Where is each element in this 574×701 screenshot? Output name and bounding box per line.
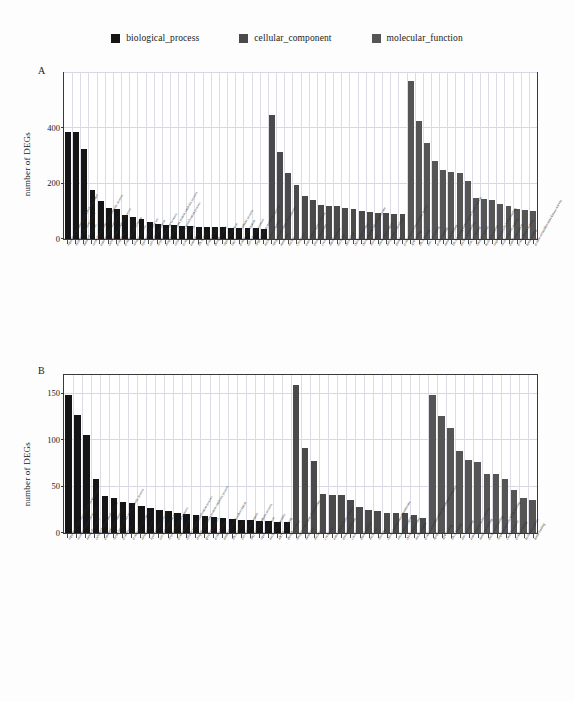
x-label-slot: cytoplasm [319,539,328,629]
x-label-slot: nucleic acid binding [456,245,464,335]
x-axis-tick-label: DNA binding [451,539,454,541]
x-axis-tick-label: metal ion binding [479,539,482,541]
bar[interactable] [408,81,414,239]
x-axis-tick-label: cellular protein modification process [174,245,177,247]
bar[interactable] [65,132,71,239]
x-axis-tick-label: nucleolus [337,245,340,247]
x-label-slot: endoplasmic reticulum [382,245,390,335]
x-label-slot: response to oxidative stress [153,245,161,335]
x-label-slot: plasma membrane [309,245,317,335]
x-label-slot: metal ion binding [440,245,448,335]
bar-slot [428,375,437,533]
bar[interactable] [429,395,436,533]
x-label-slot: carbohydrate metabolic process [90,539,99,629]
bar-slot [319,375,328,533]
bar[interactable] [65,395,72,533]
bar-slot [488,73,496,239]
x-label-slot: oxidation-reduction process [72,539,81,629]
x-label-slot: regulation of transcription, DNA-templat… [63,245,71,335]
panel-b-x-labels: regulation of transcription, DNA-templat… [63,539,538,629]
x-label-slot: nucleus [310,539,319,629]
x-axis-tick-label: transmembrane transport [104,539,107,541]
bar-slot [528,375,537,533]
x-label-slot: catalytic activity [502,539,511,629]
bar-slot [146,73,154,239]
bar[interactable] [326,206,332,239]
x-axis-tick-label: protein binding [515,539,518,541]
bar-slot [355,375,364,533]
bar-slot [382,73,390,239]
x-label-slot: glycolytic process [200,539,209,629]
x-label-slot: proteinaceous extracellular matrix [399,245,407,335]
panel-b-plot: 050100150 [63,374,538,534]
x-axis-tick-label: translation [190,245,193,247]
bar-slot [137,375,146,533]
x-axis-tick-label: DNA repair [198,245,201,247]
bar-slot [260,73,268,239]
bar[interactable] [320,494,327,533]
x-axis-tick-label: fatty acid biosynthetic process [250,539,253,541]
x-axis-tick-label: protein binding [436,245,439,247]
legend-molecular-function[interactable]: molecular_function [372,33,463,43]
x-label-slot: ATP binding [438,539,447,629]
bar-slot [113,73,121,239]
bar-slot [391,375,400,533]
x-axis-tick-label: protein kinase activity [517,245,520,247]
x-label-slot: peptidyl-serine phosphorylation [218,539,227,629]
x-label-slot: cytoplasm [292,245,300,335]
bar-slot [341,73,349,239]
x-label-slot: metabolic process [79,245,87,335]
y-axis-tick-label: 100 [47,436,64,445]
panel-b-plot-area: 050100150 [63,374,538,534]
x-label-slot: nucleic acid binding [483,539,492,629]
x-label-slot: ribosome [374,539,383,629]
x-axis-tick-label: ubiquitin-dependent protein catabolic pr… [165,245,168,247]
legend-cellular-component[interactable]: cellular_component [239,33,331,43]
x-axis-tick-label: protein folding [206,245,209,247]
bar-slot [410,375,419,533]
x-axis-tick-label: transcription factor activity [470,539,473,541]
x-label-slot: hydrolase activity [481,245,489,335]
x-label-slot: proteolysis [118,539,127,629]
bar-slot [382,375,391,533]
x-axis-tick-label: protein folding [214,539,217,541]
x-axis-tick-label: ubiquitin-dependent protein catabolic pr… [196,539,199,541]
x-label-slot: DNA repair [194,245,202,335]
x-axis-tick-label: metal ion binding [444,245,447,247]
x-label-slot: signal transduction [255,539,264,629]
x-axis-tick-label: cytoplasm [324,539,327,541]
bar[interactable] [356,507,363,533]
bar-series-container [64,73,537,239]
x-axis-tick-label: oxidoreductase activity [501,245,504,247]
legend-biological-process[interactable]: biological_process [111,33,199,43]
bar[interactable] [447,428,454,533]
x-label-slot: nucleolus [365,539,374,629]
bar-slot [291,375,300,533]
x-axis-tick-label: cell redox homeostasis [241,539,244,541]
x-axis-tick-label: oxidation-reduction process [77,539,80,541]
bar[interactable] [311,461,318,533]
bar-slot [456,73,464,239]
x-label-slot: membrane [276,245,284,335]
x-axis-tick-label: protein phosphorylation [124,245,127,247]
x-axis-tick-label: regulation of transcription, DNA-templat… [68,539,71,541]
panel-b-letter: B [38,365,45,376]
bar[interactable] [293,385,300,533]
x-label-slot: heme binding [522,245,530,335]
x-axis-tick-label: regulation of transcription, DNA-templat… [67,245,70,247]
x-label-slot: transcription factor complex [328,539,337,629]
legend-label: cellular_component [254,33,331,43]
x-axis-tick-label: cell wall organization [149,245,152,247]
x-axis-tick-label: protein transport [177,539,180,541]
bar-slot [228,375,237,533]
bar-slot [100,375,109,533]
bar-slot [211,73,219,239]
bar[interactable] [285,173,291,239]
bar-slot [173,375,182,533]
x-label-slot: mitochondrion [325,245,333,335]
x-label-slot: nuclear matrix [410,539,419,629]
bar[interactable] [456,451,463,533]
x-axis-tick-label: transcription factor complex [333,539,336,541]
x-axis-tick-label: ATP binding [442,539,445,541]
bar[interactable] [424,143,430,239]
